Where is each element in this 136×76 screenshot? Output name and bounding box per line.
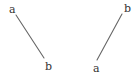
left-start-label: a	[9, 4, 16, 15]
diagram-svg	[0, 0, 136, 76]
right-end-label: b	[124, 3, 131, 14]
left-segment-line	[16, 15, 44, 58]
diagram-canvas: a b a b	[0, 0, 136, 76]
right-segment-line	[97, 14, 122, 60]
left-end-label: b	[45, 61, 52, 72]
right-start-label: a	[93, 63, 100, 74]
